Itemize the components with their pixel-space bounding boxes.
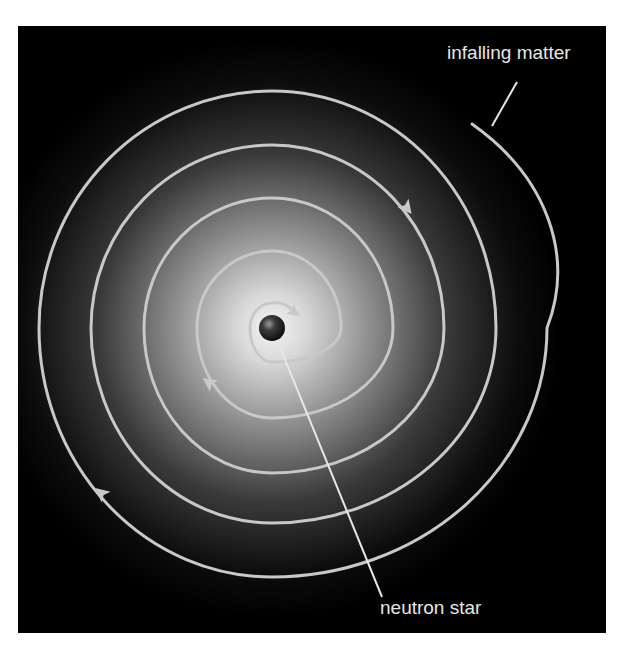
neutron-star-label: neutron star	[380, 597, 481, 619]
infalling-matter-label: infalling matter	[447, 42, 571, 64]
glow-background	[18, 26, 606, 633]
diagram-panel: infalling matter neutron star	[18, 26, 606, 633]
neutron-star-icon	[259, 315, 285, 341]
accretion-diagram	[0, 0, 624, 647]
